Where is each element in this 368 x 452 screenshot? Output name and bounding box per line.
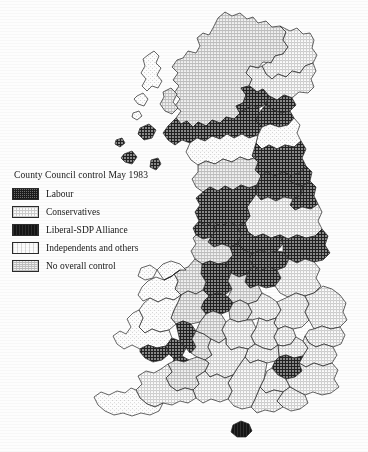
map-figure: County Council control May 1983 Labour C… [0,0,368,452]
legend-swatch-independents [12,242,39,254]
legend-swatch-labour [12,188,39,200]
legend-item-labour: Labour [12,185,180,202]
legend-item-liberal-sdp-alliance: Liberal-SDP Alliance [12,221,180,238]
region-island-small-1 [115,138,125,147]
legend-item-conservatives: Conservatives [12,203,180,220]
legend-swatch-liberal-sdp-alliance [12,224,39,236]
region-west-glamorgan [140,345,169,362]
legend-title: County Council control May 1983 [14,170,180,180]
legend-label-conservatives: Conservatives [46,206,100,218]
region-western-isles-south [134,93,148,106]
legend-label-labour: Labour [46,188,73,200]
region-isle-of-wight [231,421,252,437]
region-island-small-2 [132,111,142,120]
region-western-isles [141,51,162,91]
region-island-skye [160,88,178,114]
region-island-mull [138,124,156,140]
legend-label-independents: Independents and others [46,242,138,254]
legend-label-no-overall-control: No overall control [46,260,116,272]
map-legend: County Council control May 1983 Labour C… [12,170,180,275]
legend-label-liberal-sdp-alliance: Liberal-SDP Alliance [46,224,128,236]
legend-swatch-conservatives [12,206,39,218]
region-island-arran [150,158,161,170]
legend-swatch-no-overall-control [12,260,39,272]
legend-item-independents: Independents and others [12,239,180,256]
legend-item-no-overall-control: No overall control [12,257,180,274]
region-island-islay [121,151,137,164]
